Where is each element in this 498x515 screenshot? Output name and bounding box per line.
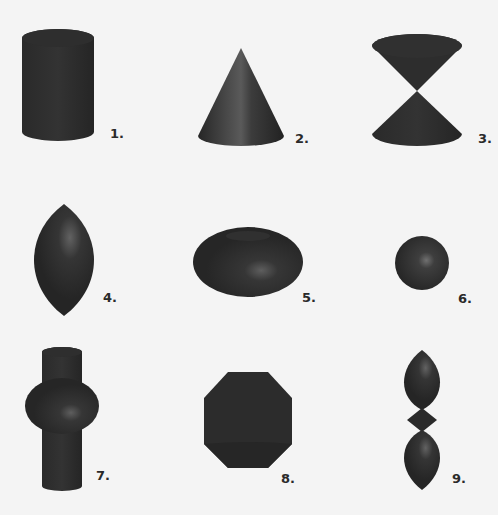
cylinder-with-torus-shape (24, 346, 100, 491)
torus-shape (192, 226, 304, 298)
label-7: 7. (96, 468, 110, 483)
cylinder-shape (20, 28, 96, 143)
stacked-spindles-shape (402, 350, 442, 490)
double-cone-shape (370, 34, 464, 149)
label-9: 9. (452, 471, 466, 486)
label-4: 4. (103, 290, 117, 305)
label-2: 2. (295, 131, 309, 146)
sphere-shape (394, 235, 450, 291)
octagonal-solid-shape (204, 372, 292, 468)
cone-shape (196, 48, 286, 148)
label-3: 3. (478, 131, 492, 146)
label-6: 6. (458, 291, 472, 306)
label-5: 5. (302, 290, 316, 305)
lemon-spindle-shape (34, 204, 94, 316)
label-1: 1. (110, 126, 124, 141)
label-8: 8. (281, 471, 295, 486)
